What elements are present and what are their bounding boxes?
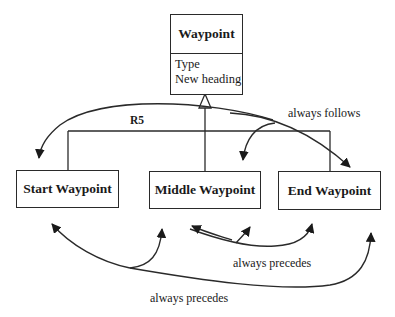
always-precedes-arc-middle-back (192, 226, 232, 240)
class-start-waypoint: Start Waypoint (16, 170, 119, 208)
attribute-new-heading: New heading (175, 72, 242, 87)
class-middle-waypoint: Middle Waypoint (149, 171, 261, 209)
label-always-precedes-2: always precedes (150, 291, 228, 306)
generalization-label: R5 (130, 114, 144, 126)
label-always-follows: always follows (288, 106, 360, 121)
class-end-waypoint: End Waypoint (278, 171, 381, 210)
always-precedes-arc-start (52, 224, 130, 268)
attribute-type: Type (175, 57, 242, 72)
always-precedes-arc-middle (236, 227, 250, 243)
class-end-waypoint-title: End Waypoint (288, 183, 371, 199)
always-precedes-arc-end (190, 224, 312, 246)
class-middle-waypoint-title: Middle Waypoint (155, 182, 256, 198)
always-precedes-arc-middle-2 (130, 229, 162, 268)
always-follows-arc-middle (243, 123, 275, 160)
diagram-canvas: Waypoint Type New heading R5 Start Waypo… (0, 0, 395, 317)
class-waypoint: Waypoint Type New heading (170, 14, 243, 95)
label-always-precedes-1: always precedes (233, 256, 311, 271)
class-waypoint-title: Waypoint (171, 15, 242, 54)
class-start-waypoint-title: Start Waypoint (23, 181, 112, 197)
class-waypoint-attributes: Type New heading (171, 54, 242, 87)
